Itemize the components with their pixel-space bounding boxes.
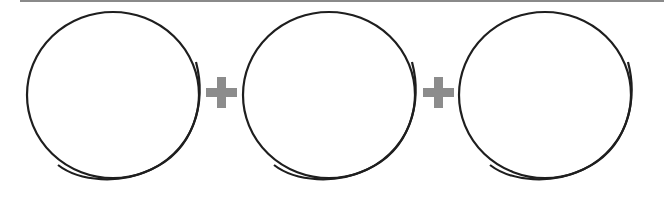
circle-2 bbox=[243, 12, 416, 179]
circle-1 bbox=[27, 12, 200, 179]
circle-sum-diagram bbox=[0, 0, 664, 197]
plus-icon bbox=[423, 77, 454, 108]
plus-icon bbox=[206, 77, 237, 108]
circle-3 bbox=[459, 12, 632, 179]
